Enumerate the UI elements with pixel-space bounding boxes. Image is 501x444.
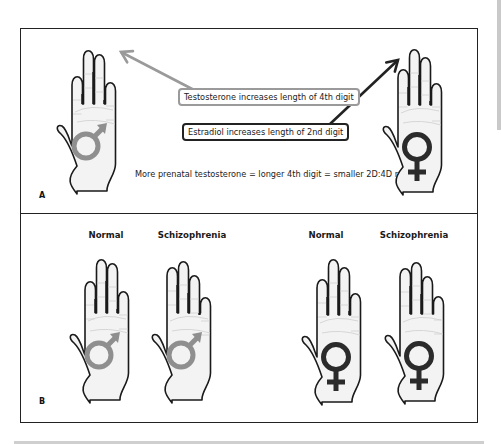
panel-a-letter: A [39,191,45,200]
column-label-male-normal: Normal [88,230,123,240]
column-label-female-normal: Normal [308,230,343,240]
male-hand [55,46,123,197]
female-hand [381,47,449,198]
male-schizophrenia-hand [150,255,218,406]
column-label-female-schizophrenia: Schizophrenia [380,230,448,240]
male-normal-hand [68,255,136,406]
scrollbar[interactable] [497,0,501,130]
panel-b-letter: B [39,397,45,406]
testosterone-label: Testosterone increases length of 4th dig… [178,88,360,106]
female-schizophrenia-hand [383,256,451,407]
female-normal-hand [300,257,368,408]
panel-a-caption: More prenatal testosterone = longer 4th … [135,169,414,179]
estradiol-label: Estradiol increases length of 2nd digit [182,123,349,141]
column-label-male-schizophrenia: Schizophrenia [158,230,226,240]
